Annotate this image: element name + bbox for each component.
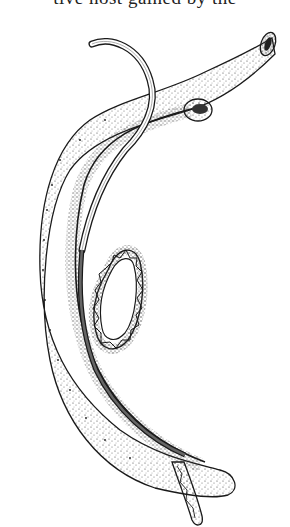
female-loop	[93, 250, 143, 349]
ventral-sucker	[184, 99, 212, 121]
schistosome-illustration	[0, 0, 290, 527]
male-body	[40, 38, 275, 497]
